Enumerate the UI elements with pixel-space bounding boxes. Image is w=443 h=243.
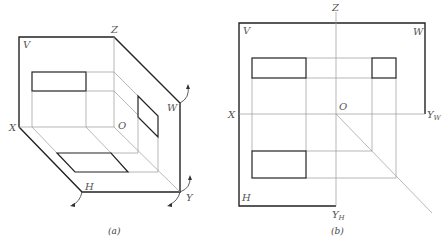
- label-w-a: W: [167, 102, 178, 113]
- proj-line: [32, 127, 57, 153]
- label-w-b: W: [413, 26, 424, 37]
- label-y-a: Y: [186, 192, 194, 203]
- label-x-a: X: [8, 122, 17, 133]
- side-view-rect: [372, 58, 396, 78]
- caption-a: (a): [108, 226, 121, 236]
- label-z-b: Z: [331, 2, 340, 13]
- label-v-a: V: [23, 39, 32, 50]
- label-yh-b: YH: [332, 209, 346, 222]
- y-axis-a: [114, 127, 180, 192]
- figure-b-orthographic: V Z W X O H YW YH (b): [227, 2, 442, 236]
- proj-line: [114, 91, 138, 115]
- rotation-arrow-icon: [169, 192, 180, 205]
- proj-line: [114, 72, 138, 96]
- arrow-head-icon: [70, 203, 75, 207]
- label-h-a: H: [84, 181, 94, 192]
- rotation-arrow-icon: [72, 192, 82, 205]
- label-o-b: O: [339, 101, 347, 112]
- front-view-rect: [252, 58, 306, 78]
- top-view-rect: [252, 151, 306, 178]
- w-projection-rect-a: [138, 96, 158, 137]
- figure-a-isometric: V Z W X O H Y (a): [8, 24, 194, 236]
- caption-b: (b): [331, 226, 344, 236]
- label-z-a: Z: [110, 24, 119, 35]
- label-v-b: V: [243, 25, 252, 36]
- arrow-head-icon: [167, 203, 172, 207]
- label-yw-b: YW: [427, 109, 442, 122]
- arrow-head-icon: [188, 175, 192, 180]
- 45-degree-line: [336, 114, 432, 213]
- label-h-b: H: [241, 192, 251, 203]
- label-o-a: O: [118, 120, 126, 131]
- arrow-head-icon: [186, 84, 190, 89]
- three-view-projection-diagram: V Z W X O H Y (a) V Z W X O H Y: [0, 0, 443, 243]
- proj-line: [86, 127, 111, 153]
- v-projection-rect-a: [32, 72, 86, 91]
- label-x-b: X: [227, 109, 236, 120]
- h-projection-rect-a: [57, 153, 128, 172]
